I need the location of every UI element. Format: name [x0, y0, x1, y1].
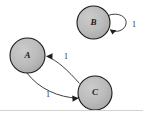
edge-c-to-a-arrowhead: [46, 53, 52, 59]
edge-a-to-c-weight: 1: [46, 90, 50, 99]
edge-b-self-loop: 1: [108, 14, 136, 34]
node-c-label: C: [92, 87, 99, 97]
edge-a-to-c: 1: [27, 73, 79, 102]
edge-c-to-a-path: [47, 56, 80, 83]
state-transition-diagram: 1 1 1 B A C: [0, 0, 143, 117]
node-c[interactable]: C: [78, 76, 112, 110]
node-b-label: B: [89, 17, 96, 27]
node-b[interactable]: B: [77, 6, 110, 39]
edge-c-to-a: 1: [46, 52, 79, 84]
edge-b-self-loop-weight: 1: [132, 20, 136, 29]
edge-a-to-c-path: [27, 73, 78, 98]
edge-c-to-a-weight: 1: [64, 52, 68, 61]
node-a[interactable]: A: [10, 38, 45, 73]
edge-a-to-c-arrowhead: [72, 95, 78, 101]
edge-b-self-loop-arrowhead: [110, 29, 117, 34]
node-a-label: A: [23, 50, 30, 60]
graph-canvas: 1 1 1 B A C: [0, 0, 143, 117]
edge-b-self-loop-path: [108, 14, 126, 31]
